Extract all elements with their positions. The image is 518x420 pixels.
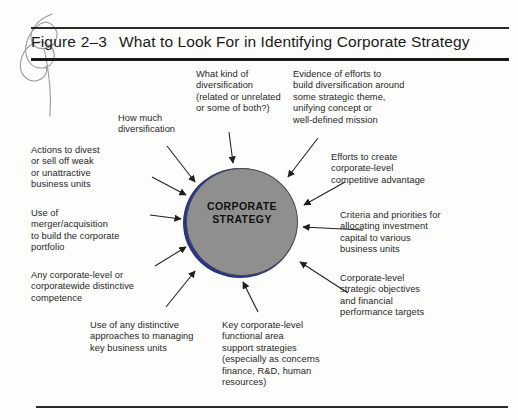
arrow-use-of-merger	[150, 215, 181, 219]
callout-corporate-level-objectives: Corporate-levelstrategic objectivesand f…	[340, 273, 460, 319]
center-circle-label: CORPORATE STRATEGY	[186, 200, 298, 226]
arrow-how-much-diversification	[167, 146, 195, 182]
callout-use-of-distinctive-approaches: Use of any distinctiveapproaches to mana…	[90, 320, 208, 354]
callout-what-kind-of-diversification: What kind ofdiversification(related or u…	[196, 69, 288, 115]
center-label-line1: CORPORATE	[186, 200, 298, 213]
arrow-evidence-of-efforts	[288, 138, 318, 177]
callout-criteria-and-priorities: Criteria and priorities forallocating in…	[340, 210, 470, 256]
footer-rule	[36, 406, 508, 408]
arrow-corporate-level-competence	[155, 247, 186, 266]
arrow-what-kind-diversification	[229, 132, 233, 163]
arrow-key-functional-strategies	[243, 282, 258, 312]
callout-actions-to-divest: Actions to divestor sell off weakor unat…	[31, 145, 137, 191]
arrow-distinctive-approaches	[166, 271, 195, 307]
arrow-actions-to-divest	[152, 177, 186, 195]
callout-evidence-of-efforts: Evidence of efforts tobuild diversificat…	[293, 69, 417, 126]
figure-page: Figure 2–3 What to Look For in Identifyi…	[0, 0, 518, 420]
callout-efforts-to-create-advantage: Efforts to createcorporate-levelcompetit…	[331, 152, 455, 186]
callout-key-functional-area-strategies: Key corporate-levelfunctional areasuppor…	[222, 320, 334, 388]
center-label-line2: STRATEGY	[186, 213, 298, 226]
callout-use-of-merger-acquisition: Use ofmerger/acquisitionto build the cor…	[31, 208, 143, 254]
callout-any-corporate-level-competence: Any corporate-level orcorporatewide dist…	[31, 270, 147, 304]
callout-how-much-diversification: How muchdiversification	[118, 113, 208, 136]
